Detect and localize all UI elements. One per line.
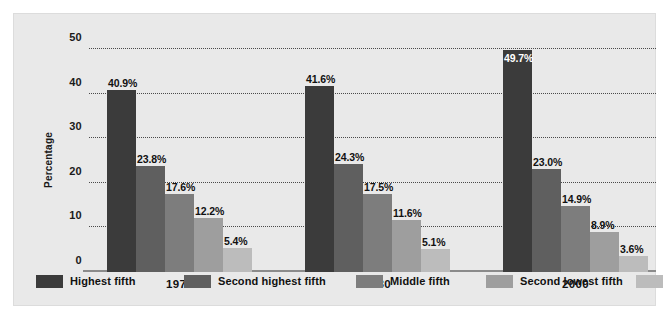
bar-slot: 11.6% — [392, 49, 421, 272]
legend-item-middle-fifth[interactable]: Middle fifth — [356, 275, 450, 288]
chart-panel: Percentage 01020304050 40.9%23.8%17.6%12… — [14, 14, 655, 305]
bar-slot: 23.0% — [532, 49, 561, 272]
bar-value-label: 41.6% — [306, 73, 335, 85]
legend-item-lowest-fifth[interactable]: Lowest fifth — [636, 275, 668, 288]
bar-value-label: 14.9% — [562, 193, 591, 205]
bar-1980-second-highest-fifth[interactable]: 24.3% — [334, 164, 363, 272]
legend-label: Middle fifth — [390, 275, 450, 287]
legend-label: Highest fifth — [70, 275, 135, 287]
legend-label: Second lowest fifth — [520, 275, 623, 287]
bar-value-label: 24.3% — [335, 151, 364, 163]
y-tick-label-0: 0 — [76, 254, 82, 266]
bar-value-label: 49.7% — [504, 52, 533, 64]
bar-1980-highest-fifth[interactable]: 41.6% — [305, 86, 334, 272]
bar-1980-second-lowest-fifth[interactable]: 11.6% — [392, 220, 421, 272]
legend-swatch-icon — [36, 275, 63, 288]
bar-slot: 49.7% — [503, 49, 532, 272]
y-tick-label-50: 50 — [69, 31, 82, 43]
bar-1970-highest-fifth[interactable]: 40.9% — [107, 90, 136, 272]
legend-item-second-highest-fifth[interactable]: Second highest fifth — [184, 275, 326, 288]
chart-screenshot: Percentage 01020304050 40.9%23.8%17.6%12… — [0, 0, 668, 320]
bar-value-label: 12.2% — [195, 205, 224, 217]
bar-2000-middle-fifth[interactable]: 14.9% — [561, 206, 590, 272]
plot-area: 01020304050 40.9%23.8%17.6%12.2%5.4%1970… — [89, 49, 656, 272]
bar-1970-second-highest-fifth[interactable]: 23.8% — [136, 166, 165, 272]
bar-group-1970: 40.9%23.8%17.6%12.2%5.4%1970 — [107, 49, 252, 272]
bar-1970-lowest-fifth[interactable]: 5.4% — [223, 248, 252, 272]
legend-swatch-icon — [486, 275, 513, 288]
bar-group-2000: 49.7%23.0%14.9%8.9%3.6%2000 — [503, 49, 648, 272]
bar-2000-second-lowest-fifth[interactable]: 8.9% — [590, 232, 619, 272]
legend-swatch-icon — [356, 275, 383, 288]
bar-1970-second-lowest-fifth[interactable]: 12.2% — [194, 218, 223, 272]
chart-legend: Highest fifthSecond highest fifthMiddle … — [36, 271, 641, 291]
y-tick-label-30: 30 — [69, 120, 82, 132]
bar-value-label: 23.8% — [137, 153, 166, 165]
bar-value-label: 17.5% — [364, 181, 393, 193]
legend-label: Second highest fifth — [218, 275, 326, 287]
bar-value-label: 8.9% — [591, 219, 615, 231]
bar-value-label: 5.4% — [224, 235, 248, 247]
bar-value-label: 17.6% — [166, 181, 195, 193]
bar-value-label: 40.9% — [108, 77, 137, 89]
legend-swatch-icon — [184, 275, 211, 288]
bar-1970-middle-fifth[interactable]: 17.6% — [165, 194, 194, 272]
bar-2000-second-highest-fifth[interactable]: 23.0% — [532, 169, 561, 272]
bar-slot: 17.5% — [363, 49, 392, 272]
bar-1980-middle-fifth[interactable]: 17.5% — [363, 194, 392, 272]
y-tick-label-10: 10 — [69, 209, 82, 221]
bar-2000-highest-fifth[interactable]: 49.7% — [503, 50, 532, 272]
bar-value-label: 5.1% — [422, 236, 446, 248]
legend-item-highest-fifth[interactable]: Highest fifth — [36, 275, 135, 288]
bar-slot: 23.8% — [136, 49, 165, 272]
y-tick-label-40: 40 — [69, 76, 82, 88]
bar-slot: 17.6% — [165, 49, 194, 272]
bar-value-label: 11.6% — [393, 207, 422, 219]
bar-slot: 8.9% — [590, 49, 619, 272]
bar-slot: 5.1% — [421, 49, 450, 272]
bar-group-1980: 41.6%24.3%17.5%11.6%5.1%1980 — [305, 49, 450, 272]
bar-slot: 12.2% — [194, 49, 223, 272]
bar-slot: 41.6% — [305, 49, 334, 272]
bar-slot: 3.6% — [619, 49, 648, 272]
bar-slot: 40.9% — [107, 49, 136, 272]
legend-item-second-lowest-fifth[interactable]: Second lowest fifth — [486, 275, 623, 288]
bars: 49.7%23.0%14.9%8.9%3.6% — [503, 49, 648, 272]
y-axis-title: Percentage — [43, 132, 54, 188]
bars: 41.6%24.3%17.5%11.6%5.1% — [305, 49, 450, 272]
bar-value-label: 3.6% — [620, 243, 644, 255]
bar-slot: 5.4% — [223, 49, 252, 272]
legend-swatch-icon — [636, 275, 663, 288]
bar-slot: 14.9% — [561, 49, 590, 272]
y-tick-label-20: 20 — [69, 165, 82, 177]
bar-2000-lowest-fifth[interactable]: 3.6% — [619, 256, 648, 272]
bars: 40.9%23.8%17.6%12.2%5.4% — [107, 49, 252, 272]
bar-value-label: 23.0% — [533, 156, 562, 168]
bar-1980-lowest-fifth[interactable]: 5.1% — [421, 249, 450, 272]
bar-slot: 24.3% — [334, 49, 363, 272]
